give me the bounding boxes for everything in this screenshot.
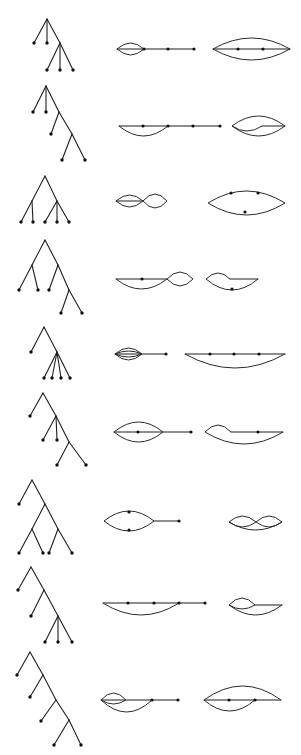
rooted-tree (29, 327, 71, 380)
graph-arc-edge (167, 272, 193, 279)
leaf-vertex (45, 41, 48, 44)
graph-arc-edge (167, 279, 193, 286)
tree-edge (43, 393, 56, 416)
tree-edge (57, 201, 69, 222)
rooted-tree (16, 567, 73, 644)
graph-vertex (261, 47, 264, 50)
rooted-tree (28, 393, 87, 467)
graph-vertex (208, 352, 211, 355)
multigraph-1 (116, 194, 167, 208)
graph-arc-edge (229, 598, 255, 605)
multigraph-2 (208, 191, 285, 215)
graph-vertex (126, 601, 129, 604)
graph-vertex (166, 124, 169, 127)
tree-edge (45, 176, 57, 201)
row-5 (29, 327, 285, 380)
tree-edge (30, 393, 43, 416)
tree-edge (51, 112, 59, 134)
graph-vertex (152, 601, 155, 604)
tree-edge (49, 265, 58, 290)
graph-arc-edge (101, 693, 126, 700)
leaf-vertex (58, 68, 61, 71)
tree-edge (60, 43, 73, 70)
leaf-vertex (43, 640, 46, 643)
graph-vertex (136, 430, 139, 433)
multigraph-1 (101, 693, 180, 712)
leaf-vertex (70, 640, 73, 643)
tree-edge (21, 201, 32, 222)
graph-vertex (127, 510, 130, 513)
leaf-vertex (83, 158, 86, 161)
leaf-vertex (71, 68, 74, 71)
graph-vertex (166, 47, 169, 50)
tree-edge (32, 176, 45, 201)
graph-arc-edge (208, 203, 285, 215)
graph-vertex (232, 352, 235, 355)
tree-edge (56, 700, 69, 720)
tree-edge (31, 590, 44, 616)
multigraph-2 (204, 686, 281, 711)
graph-arc-edge (204, 700, 255, 711)
graph-arc-edge (229, 522, 256, 527)
tree-edge (30, 675, 43, 697)
multigraph-2 (232, 116, 285, 136)
leaf-vertex (36, 288, 39, 291)
tree-edge (19, 265, 32, 290)
tree-edge (45, 240, 58, 265)
leaf-vertex (28, 695, 31, 698)
tree-edge (54, 720, 69, 745)
tree-edge (18, 567, 31, 590)
tree-edge (58, 529, 72, 553)
graph-arc-edge (101, 700, 152, 712)
graph-arc-edge (208, 191, 285, 203)
multigraph-1 (115, 348, 168, 360)
multigraph-2 (185, 352, 285, 368)
leaf-vertex (70, 551, 73, 554)
tree-edge (44, 327, 57, 352)
graph-vertex (229, 191, 232, 194)
leaf-vertex (31, 110, 34, 113)
tree-edge (56, 416, 69, 442)
tree-edge (34, 19, 47, 43)
tree-edge (43, 416, 56, 440)
graph-arc-edge (116, 195, 143, 201)
tree-edge (58, 616, 72, 642)
graph-arc-edge (229, 516, 256, 522)
row-2 (31, 86, 285, 162)
diagram-canvas (0, 0, 301, 755)
leaf-vertex (29, 614, 32, 617)
multigraph-1 (116, 272, 193, 289)
graph-vertex (127, 528, 130, 531)
leaf-vertex (17, 288, 20, 291)
graph-arc-edge (229, 605, 282, 615)
leaf-vertex (39, 719, 42, 722)
graph-arc-edge (213, 49, 290, 60)
tree-edge (61, 290, 69, 313)
tree-edge (58, 265, 69, 290)
leaf-vertex (47, 288, 50, 291)
row-1 (32, 19, 290, 72)
graph-arc-edge (143, 201, 167, 208)
row-8 (16, 567, 282, 644)
graph-vertex (150, 698, 153, 701)
leaf-vertex (60, 158, 63, 161)
tree-edge (69, 442, 86, 465)
cropped-caption (0, 0, 301, 2)
tree-edge (32, 480, 45, 504)
graph-vertex (253, 698, 256, 701)
graph-arc-edge (143, 194, 167, 201)
leaf-vertex (41, 438, 44, 441)
tree-edge (17, 652, 30, 675)
leaf-vertex (55, 438, 58, 441)
graph-vertex (218, 124, 221, 127)
multigraph-2 (213, 38, 290, 60)
tree-edge (44, 590, 58, 616)
multigraph-1 (114, 422, 193, 442)
tree-edge (32, 201, 33, 222)
graph-arc-edge (185, 354, 285, 368)
leaf-vertex (49, 132, 52, 135)
graph-vertex (192, 47, 195, 50)
tree-edge (41, 700, 56, 721)
graph-vertex (227, 698, 230, 701)
graph-arc-edge (204, 686, 281, 700)
